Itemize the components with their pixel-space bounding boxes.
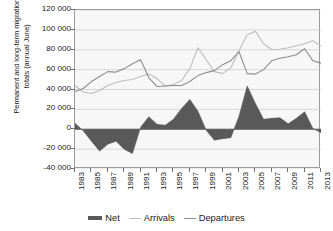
x-tick-label: 2011 <box>307 172 316 206</box>
y-axis-tick-labels: 120 000100 00080 00060 00040 00020 0000-… <box>30 0 71 231</box>
y-tick-label: 80 000 <box>30 45 71 53</box>
y-tick-label: 20 000 <box>30 104 71 112</box>
x-tick-label: 2007 <box>274 172 283 206</box>
x-tick-mark <box>107 168 108 172</box>
migration-chart: Permanent and long-term migration totals… <box>0 0 333 231</box>
x-tick-mark <box>222 168 223 172</box>
y-tick-label: 0 <box>30 124 71 132</box>
x-tick-label: 1985 <box>94 172 103 206</box>
y-tick-mark <box>70 69 75 70</box>
y-tick-mark <box>70 148 75 149</box>
x-tick-mark <box>90 168 91 172</box>
departures-line-swatch-icon <box>184 218 196 219</box>
y-tick-mark <box>70 49 75 50</box>
y-tick-mark <box>70 108 75 109</box>
x-tick-mark <box>254 168 255 172</box>
x-tick-label: 2009 <box>291 172 300 206</box>
y-tick-label: -20 000 <box>30 144 71 152</box>
y-tick-mark <box>70 128 75 129</box>
plot-svg <box>75 10 321 169</box>
arrivals-line-swatch-icon <box>129 218 141 219</box>
y-tick-label: 120 000 <box>30 5 71 13</box>
y-tick-mark <box>70 29 75 30</box>
x-axis-tick-labels: 1983198519871989199119931995199719992001… <box>74 168 320 212</box>
series-line-departures <box>75 49 321 92</box>
x-tick-mark <box>140 168 141 172</box>
x-tick-label: 1999 <box>209 172 218 206</box>
chart-legend: NetArrivalsDepartures <box>0 210 333 226</box>
x-tick-mark <box>172 168 173 172</box>
x-tick-mark <box>156 168 157 172</box>
x-tick-mark <box>189 168 190 172</box>
x-tick-mark <box>74 168 75 172</box>
x-tick-label: 1987 <box>110 172 119 206</box>
legend-item-net[interactable]: Net <box>88 213 119 223</box>
x-tick-label: 1993 <box>160 172 169 206</box>
y-tick-label: 60 000 <box>30 65 71 73</box>
x-tick-mark <box>123 168 124 172</box>
x-tick-label: 1997 <box>192 172 201 206</box>
x-tick-mark <box>287 168 288 172</box>
series-area-net <box>75 86 321 154</box>
y-tick-mark <box>70 89 75 90</box>
plot-area <box>74 9 320 168</box>
x-tick-label: 2001 <box>225 172 234 206</box>
x-tick-label: 2003 <box>242 172 251 206</box>
y-tick-label: 40 000 <box>30 84 71 92</box>
series-line-arrivals <box>75 31 321 93</box>
x-tick-label: 1991 <box>143 172 152 206</box>
legend-item-arrivals[interactable]: Arrivals <box>129 213 175 223</box>
y-tick-mark <box>70 9 75 10</box>
x-tick-mark <box>238 168 239 172</box>
x-tick-mark <box>304 168 305 172</box>
legend-label: Departures <box>199 213 245 223</box>
x-tick-label: 2013 <box>324 172 333 206</box>
legend-label: Arrivals <box>144 213 175 223</box>
x-tick-label: 2005 <box>258 172 267 206</box>
net-swatch-icon <box>88 216 102 220</box>
y-tick-label: -40 000 <box>30 164 71 172</box>
x-tick-mark <box>271 168 272 172</box>
x-tick-mark <box>205 168 206 172</box>
legend-label: Net <box>105 213 119 223</box>
x-tick-label: 1983 <box>78 172 87 206</box>
y-tick-label: 100 000 <box>30 25 71 33</box>
legend-item-departures[interactable]: Departures <box>184 213 245 223</box>
x-tick-label: 1995 <box>176 172 185 206</box>
x-tick-label: 1989 <box>127 172 136 206</box>
x-tick-mark <box>320 168 321 172</box>
